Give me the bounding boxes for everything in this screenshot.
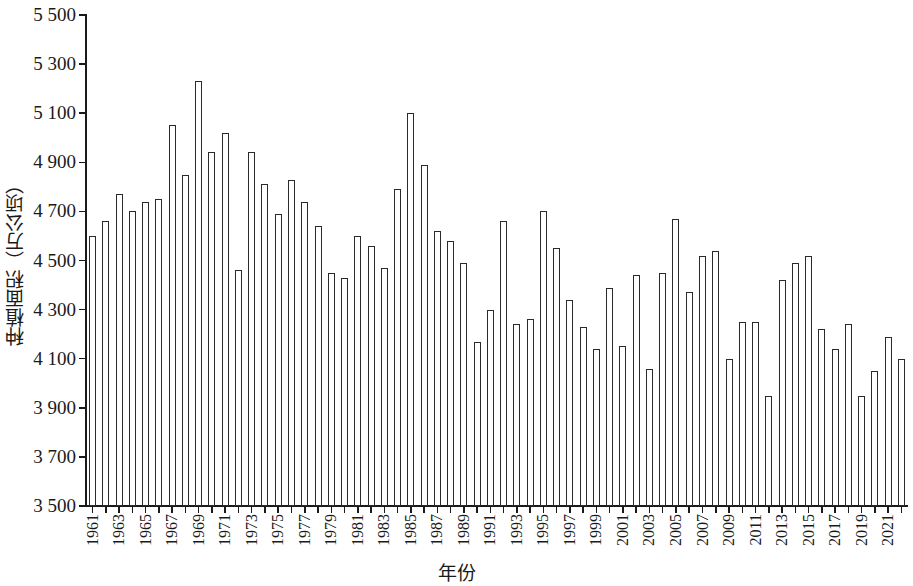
bar — [779, 280, 786, 506]
bar — [169, 125, 176, 506]
x-tick-mark — [688, 507, 690, 513]
bar — [116, 194, 123, 506]
x-tick-label: 1983 — [376, 514, 392, 546]
bar — [646, 369, 653, 506]
bar — [341, 278, 348, 506]
bar — [421, 165, 428, 506]
bar — [102, 221, 109, 506]
x-tick-label: 1985 — [403, 514, 419, 546]
y-tick-mark — [79, 505, 86, 507]
x-tick-mark — [476, 507, 478, 513]
bar — [513, 324, 520, 506]
x-tick-mark — [145, 507, 147, 513]
x-axis-title: 年份 — [0, 558, 913, 585]
bar — [182, 175, 189, 506]
y-axis-tick-labels: 5 5005 3005 1004 9004 7004 5004 3004 100… — [0, 15, 76, 506]
x-tick-mark — [795, 507, 797, 513]
x-tick-label: 2003 — [641, 514, 657, 546]
x-tick-mark — [755, 507, 757, 513]
bar — [500, 221, 507, 506]
bar — [394, 189, 401, 506]
x-tick-mark — [887, 507, 889, 513]
y-tick-label: 5 100 — [33, 102, 76, 124]
x-tick-mark — [861, 507, 863, 513]
x-tick-label: 1973 — [244, 514, 260, 546]
x-tick-mark — [675, 507, 677, 513]
y-tick-mark — [79, 260, 86, 262]
bar — [235, 270, 242, 506]
x-tick-mark — [224, 507, 226, 513]
bar — [898, 359, 905, 506]
x-tick-mark — [304, 507, 306, 513]
bar — [315, 226, 322, 506]
bar — [726, 359, 733, 506]
x-tick-mark — [874, 507, 876, 513]
x-tick-mark — [251, 507, 253, 513]
plot-area — [86, 15, 908, 506]
x-tick-label: 1999 — [588, 514, 604, 546]
x-tick-mark — [118, 507, 120, 513]
bar — [261, 184, 268, 506]
x-tick-mark — [742, 507, 744, 513]
bar — [845, 324, 852, 506]
bar — [752, 322, 759, 506]
x-tick-label: 1961 — [85, 514, 101, 546]
x-tick-mark — [410, 507, 412, 513]
x-tick-mark — [277, 507, 279, 513]
x-tick-label: 2015 — [801, 514, 817, 546]
y-tick-mark — [79, 358, 86, 360]
bar — [566, 300, 573, 506]
y-tick-mark — [79, 309, 86, 311]
x-tick-label: 1975 — [270, 514, 286, 546]
x-tick-label: 1995 — [535, 514, 551, 546]
bar — [222, 133, 229, 506]
y-tick-mark — [79, 14, 86, 16]
x-tick-mark — [503, 507, 505, 513]
x-tick-mark — [490, 507, 492, 513]
x-tick-mark — [357, 507, 359, 513]
bar — [792, 263, 799, 506]
bar — [818, 329, 825, 506]
y-tick-label: 5 500 — [33, 4, 76, 26]
x-tick-mark — [344, 507, 346, 513]
x-tick-label: 1979 — [323, 514, 339, 546]
x-tick-mark — [622, 507, 624, 513]
y-tick-label: 3 700 — [33, 446, 76, 468]
bar — [155, 199, 162, 506]
bar — [593, 349, 600, 506]
bar — [858, 396, 865, 506]
x-tick-label: 2017 — [827, 514, 843, 546]
x-tick-label: 1987 — [429, 514, 445, 546]
y-tick-label: 4 500 — [33, 250, 76, 272]
y-tick-label: 3 900 — [33, 397, 76, 419]
bar — [619, 346, 626, 506]
bar — [460, 263, 467, 506]
bar — [248, 152, 255, 506]
y-tick-label: 4 100 — [33, 348, 76, 370]
y-tick-label: 4 300 — [33, 299, 76, 321]
bar — [686, 292, 693, 506]
y-tick-mark — [79, 162, 86, 164]
y-tick-mark — [79, 456, 86, 458]
bar — [606, 288, 613, 506]
x-tick-mark — [834, 507, 836, 513]
x-tick-mark — [609, 507, 611, 513]
y-tick-label: 4 900 — [33, 151, 76, 173]
x-tick-label: 2007 — [695, 514, 711, 546]
bar — [354, 236, 361, 506]
x-tick-label: 2009 — [721, 514, 737, 546]
bar — [301, 202, 308, 506]
bar — [672, 219, 679, 506]
x-tick-mark — [543, 507, 545, 513]
bar — [381, 268, 388, 506]
x-tick-mark — [649, 507, 651, 513]
x-tick-label: 1971 — [217, 514, 233, 546]
bar — [447, 241, 454, 506]
x-tick-mark — [556, 507, 558, 513]
bar — [580, 327, 587, 506]
bar — [805, 256, 812, 506]
y-tick-mark — [79, 211, 86, 213]
x-tick-mark — [662, 507, 664, 513]
x-tick-mark — [702, 507, 704, 513]
x-tick-mark — [158, 507, 160, 513]
